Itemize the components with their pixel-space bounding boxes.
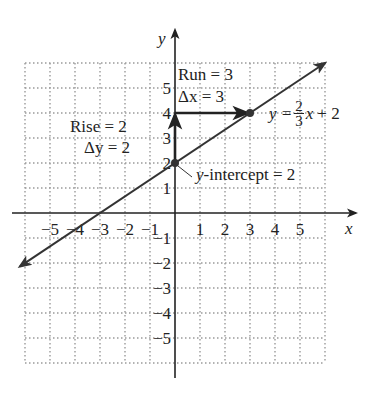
graph-figure: −5−4−3−2−11234554321−1−2−3−4−5 y x Rise … — [0, 0, 367, 397]
svg-text:−4: −4 — [153, 304, 172, 323]
svg-text:−5: −5 — [153, 329, 171, 348]
svg-text:5: 5 — [296, 220, 305, 239]
svg-text:3: 3 — [163, 129, 172, 148]
equation-x: x — [306, 105, 314, 122]
rise-label: Rise = 2 — [70, 118, 127, 135]
y-axis-label: y — [158, 30, 166, 47]
slope-numerator: 2 — [294, 99, 304, 114]
intercept-var: y — [196, 165, 204, 184]
svg-text:4: 4 — [271, 220, 280, 239]
svg-text:−3: −3 — [91, 220, 109, 239]
svg-text:5: 5 — [163, 79, 172, 98]
intercept-text: -intercept = 2 — [204, 165, 296, 184]
svg-text:4: 4 — [163, 104, 172, 123]
svg-text:−1: −1 — [153, 229, 171, 248]
svg-text:3: 3 — [246, 220, 255, 239]
svg-text:−2: −2 — [116, 220, 134, 239]
svg-text:1: 1 — [196, 220, 205, 239]
slope-denominator: 3 — [294, 114, 304, 128]
svg-text:1: 1 — [163, 179, 172, 198]
intercept-label: y-intercept = 2 — [196, 166, 295, 183]
equation-lhs: y = — [269, 105, 292, 122]
run-label: Run = 3 — [178, 66, 233, 83]
svg-text:−3: −3 — [153, 279, 171, 298]
delta-x-label: Δx = 3 — [178, 88, 224, 105]
delta-y-label: Δy = 2 — [84, 139, 130, 156]
x-axis-label: x — [345, 220, 353, 237]
equation-constant: + 2 — [317, 105, 339, 122]
svg-text:2: 2 — [221, 220, 230, 239]
svg-text:−2: −2 — [153, 254, 171, 273]
svg-text:−5: −5 — [41, 220, 59, 239]
equation-label: y = 2 3 x + 2 — [269, 99, 340, 128]
coordinate-plane: −5−4−3−2−11234554321−1−2−3−4−5 — [0, 0, 367, 397]
slope-fraction: 2 3 — [294, 99, 304, 128]
